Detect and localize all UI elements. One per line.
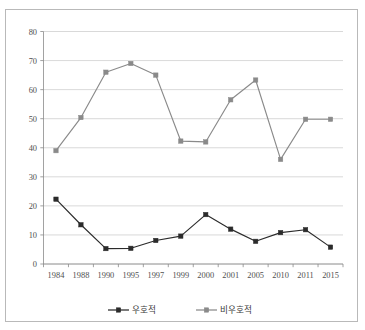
x-tick-label: 1988 [73, 271, 90, 280]
x-tick-labels-group: 1984198819901995199719992000200120052010… [48, 271, 339, 280]
data-point-marker [79, 223, 83, 227]
y-tick-label: 60 [29, 86, 37, 95]
legend-marker-icon [116, 308, 120, 312]
y-tick-label: 70 [29, 57, 37, 66]
chart-legend: 우호적비우호적 [108, 304, 252, 315]
data-point-marker [79, 115, 83, 119]
y-tick-label: 30 [29, 173, 37, 182]
data-point-marker [179, 139, 183, 143]
x-tick-label: 2015 [322, 271, 339, 280]
data-point-marker [104, 246, 108, 250]
data-point-marker [228, 98, 232, 102]
data-point-marker [54, 197, 58, 201]
x-tick-label: 2000 [197, 271, 214, 280]
data-point-marker [278, 230, 282, 234]
data-point-marker [129, 61, 133, 65]
data-point-marker [253, 78, 257, 82]
y-tick-labels-group: 01020304050607080 [29, 28, 37, 270]
y-tick-label: 10 [29, 231, 37, 240]
data-point-marker [328, 245, 332, 249]
data-point-marker [154, 73, 158, 77]
data-point-marker [278, 157, 282, 161]
x-tick-label: 1995 [122, 271, 139, 280]
data-point-marker [328, 117, 332, 121]
y-tick-label: 50 [29, 115, 37, 124]
y-tick-label: 0 [33, 260, 37, 269]
legend-item-1[interactable]: 우호적 [108, 304, 156, 315]
data-point-marker [104, 70, 108, 74]
data-point-marker [253, 239, 257, 243]
data-point-marker [228, 227, 232, 231]
y-tick-label: 80 [29, 28, 37, 37]
line-chart: 01020304050607080 1984198819901995199719… [0, 0, 365, 330]
x-tick-label: 1990 [98, 271, 115, 280]
data-point-marker [54, 148, 58, 152]
x-tick-label: 2011 [297, 271, 313, 280]
x-tick-label: 1984 [48, 271, 66, 280]
y-tick-label: 40 [29, 144, 37, 153]
x-tick-label: 2010 [272, 271, 289, 280]
data-point-marker [204, 140, 208, 144]
legend-label: 우호적 [132, 304, 156, 315]
series-line-1 [56, 199, 331, 248]
data-point-marker [303, 117, 307, 121]
legend-label: 비우호적 [220, 304, 252, 315]
data-point-marker [303, 228, 307, 232]
data-point-marker [204, 212, 208, 216]
legend-marker-icon [204, 308, 208, 312]
x-tick-label: 2005 [247, 271, 264, 280]
legend-item-2[interactable]: 비우호적 [196, 304, 252, 315]
y-tickmarks-group [40, 32, 43, 265]
data-point-marker [179, 234, 183, 238]
x-tick-label: 1999 [172, 271, 189, 280]
plot-area-wrapper: 01020304050607080 1984198819901995199719… [0, 0, 365, 330]
data-point-marker [154, 238, 158, 242]
x-tickmarks-group [44, 264, 344, 267]
series-line-2 [56, 63, 331, 159]
x-tick-label: 2001 [222, 271, 239, 280]
x-tick-label: 1997 [147, 271, 164, 280]
data-point-marker [129, 246, 133, 250]
chart-figure: 01020304050607080 1984198819901995199719… [0, 0, 365, 330]
gridlines-group [44, 32, 344, 265]
y-tick-label: 20 [29, 202, 37, 211]
